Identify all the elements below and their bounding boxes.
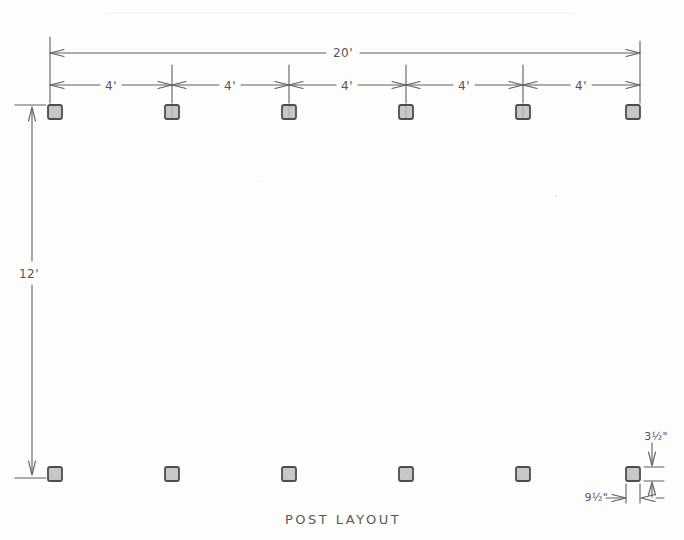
posts-top-row	[48, 105, 640, 119]
dimension-label-20ft: 20'	[333, 46, 353, 60]
post-layout-drawing: 20' 4' 4' 4' 4' 4' 12' 3½" 9½" POST LAYO…	[0, 0, 684, 540]
post-centerlines	[172, 106, 523, 118]
post	[165, 467, 179, 481]
post-depth-label: 3½"	[644, 430, 668, 443]
tick-lines-12ft	[15, 105, 46, 478]
posts-bottom-row	[48, 467, 640, 481]
dimension-label-4ft: 4'	[458, 79, 470, 93]
scan-smudge	[105, 12, 575, 14]
post	[282, 467, 296, 481]
paper-speck	[261, 180, 263, 182]
post	[626, 467, 640, 481]
dimension-label-4ft: 4'	[105, 79, 117, 93]
post	[48, 467, 62, 481]
dimension-label-4ft: 4'	[575, 79, 587, 93]
drawing-title: POST LAYOUT	[285, 512, 401, 527]
post	[48, 105, 62, 119]
post	[399, 467, 413, 481]
dimension-label-4ft: 4'	[341, 79, 353, 93]
dimension-label-4ft: 4'	[224, 79, 236, 93]
post	[626, 105, 640, 119]
paper-speck	[555, 195, 557, 197]
post-width-label: 9½"	[584, 491, 608, 504]
post	[516, 467, 530, 481]
dimension-label-12ft: 12'	[19, 267, 39, 281]
drawing-sheet: 20' 4' 4' 4' 4' 4' 12' 3½" 9½" POST LAYO…	[0, 0, 684, 540]
